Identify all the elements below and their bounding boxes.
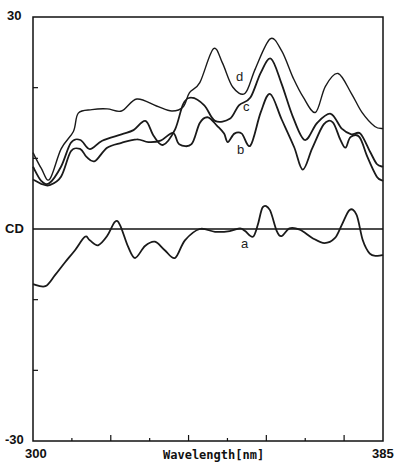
curve-label-a: a [241, 236, 248, 251]
curve-b [33, 94, 383, 186]
curve-label-d: d [236, 69, 243, 84]
curve-label-c: c [243, 99, 250, 114]
x-axis-label: Wavelength[nm] [163, 448, 264, 462]
x-tick-label-left: 300 [25, 446, 47, 461]
curves-group [33, 38, 383, 286]
x-tick-label-right: 385 [372, 446, 394, 461]
y-tick-label-top: 30 [7, 8, 21, 23]
y-axis-label: CD [5, 221, 24, 236]
curve-a [33, 206, 383, 287]
cd-spectrum-plot [0, 0, 401, 470]
curve-label-b: b [237, 142, 244, 157]
y-tick-label-bottom: -30 [5, 432, 24, 447]
